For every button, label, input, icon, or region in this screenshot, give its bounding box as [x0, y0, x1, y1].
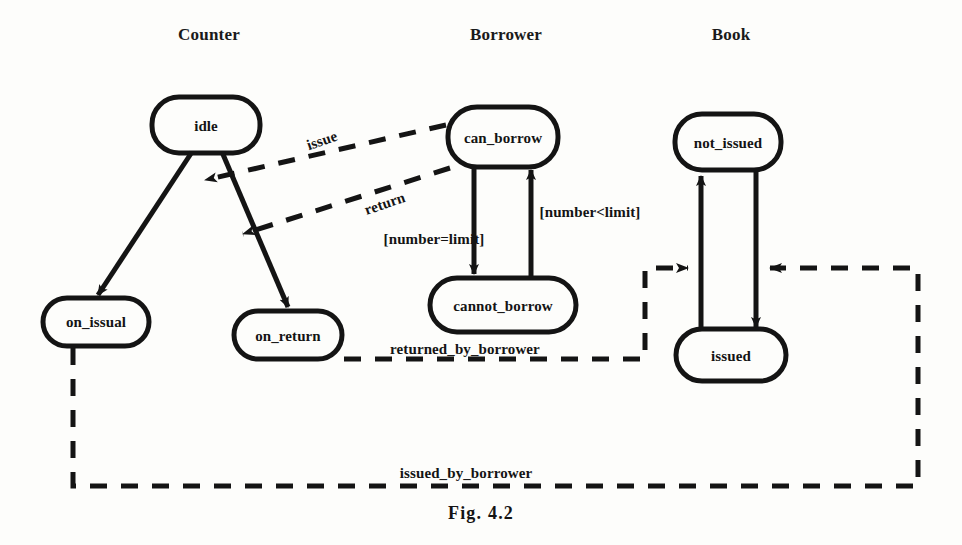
borrower-vertical-transitions [474, 166, 531, 277]
state-label-idle: idle [194, 118, 218, 135]
edge-label-returned-by-borrower: returned_by_borrower [390, 341, 540, 358]
state-label-can_borrow: can_borrow [464, 130, 542, 147]
figure-canvas: Counter Borrower Book idle on_issual on_… [0, 0, 962, 545]
state-label-issued: issued [711, 348, 751, 365]
state-diagram [0, 0, 962, 545]
figure-caption: Fig. 4.2 [448, 503, 514, 524]
state-label-not_issued: not_issued [694, 135, 763, 152]
state-label-on_return: on_return [255, 328, 321, 345]
book-vertical-transitions [701, 170, 756, 330]
state-label-on_issual: on_issual [66, 314, 126, 331]
column-header-book: Book [712, 25, 751, 45]
transition-return[interactable] [243, 168, 450, 234]
edge-label-number-equals-limit: [number=limit] [384, 231, 485, 248]
edge-label-number-less-than-limit: [number<limit] [540, 204, 641, 221]
column-header-borrower: Borrower [470, 25, 542, 45]
column-header-counter: Counter [178, 25, 240, 45]
transition-idle-to-on_issual[interactable] [98, 152, 192, 295]
state-label-cannot_borrow: cannot_borrow [453, 298, 552, 315]
edge-label-issued-by-borrower: issued_by_borrower [400, 465, 532, 482]
